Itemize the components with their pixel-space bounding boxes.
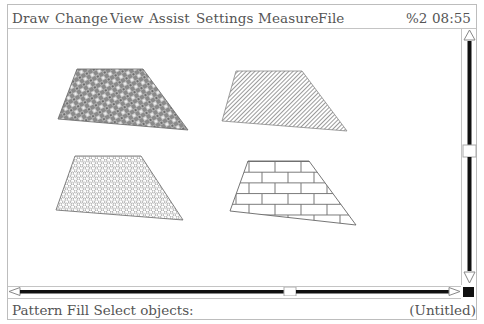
canvas-svg — [8, 29, 460, 285]
vertical-track-lower[interactable] — [468, 157, 472, 271]
command-prompt: Pattern Fill Select objects: — [12, 302, 194, 318]
vertical-scrollbar-svg — [462, 29, 477, 285]
layer-indicator: %2 — [406, 10, 427, 26]
scrollbar-corner-box — [463, 287, 474, 297]
document-name: (Untitled) — [409, 302, 476, 318]
trapezoid-diagonal-hatch[interactable] — [222, 71, 347, 131]
menu-assist[interactable]: Assist — [149, 10, 190, 26]
status-line: Pattern Fill Select objects: (Untitled) — [8, 298, 476, 320]
horizontal-scroll-thumb[interactable] — [284, 287, 296, 296]
trapezoid-honeycomb[interactable] — [56, 156, 183, 220]
trapezoid-crosshatch-dense[interactable] — [58, 69, 188, 130]
drawing-canvas[interactable] — [8, 29, 460, 285]
menu-measure[interactable]: Measure — [258, 10, 319, 26]
menu-view[interactable]: View — [110, 10, 144, 26]
vertical-scroll-thumb[interactable] — [463, 145, 476, 157]
menu-bar: Draw Change View Assist Settings Measure… — [8, 5, 476, 29]
clock: 08:55 — [432, 10, 471, 26]
down-arrow-icon[interactable] — [464, 272, 475, 283]
menu-draw[interactable]: Draw — [12, 10, 49, 26]
up-arrow-icon[interactable] — [464, 30, 475, 40]
menu-change[interactable]: Change — [55, 10, 108, 26]
menu-file[interactable]: File — [318, 10, 344, 26]
vertical-scrollbar[interactable] — [461, 29, 477, 285]
right-arrow-icon[interactable] — [449, 288, 460, 296]
horizontal-scrollbar-svg — [8, 287, 461, 296]
trapezoid-brick[interactable] — [230, 161, 356, 225]
horizontal-track-right[interactable] — [296, 290, 449, 294]
vertical-track-upper[interactable] — [468, 41, 472, 145]
horizontal-track-left[interactable] — [20, 290, 284, 294]
left-arrow-icon[interactable] — [9, 288, 20, 296]
menu-settings[interactable]: Settings — [196, 10, 253, 26]
